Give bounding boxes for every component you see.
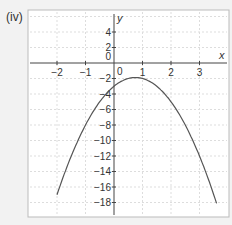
svg-text:−1: −1 (80, 67, 92, 78)
svg-text:0: 0 (117, 66, 123, 77)
parabola-chart: xy−2−10123420−2−4−6−8−10−12−14−16−18 (0, 0, 232, 225)
svg-text:−2: −2 (100, 73, 112, 84)
svg-text:−2: −2 (51, 67, 63, 78)
svg-text:0: 0 (105, 51, 111, 62)
plot-frame (28, 10, 229, 217)
svg-text:−14: −14 (94, 166, 111, 177)
svg-text:4: 4 (105, 27, 111, 38)
svg-text:2: 2 (168, 67, 174, 78)
svg-text:−10: −10 (94, 135, 111, 146)
svg-text:−12: −12 (94, 151, 111, 162)
svg-text:−8: −8 (100, 120, 112, 131)
x-axis-label: x (218, 49, 225, 61)
svg-text:1: 1 (140, 67, 146, 78)
svg-text:3: 3 (197, 67, 203, 78)
svg-text:−6: −6 (100, 104, 112, 115)
svg-text:−16: −16 (94, 182, 111, 193)
svg-text:−18: −18 (94, 197, 111, 208)
